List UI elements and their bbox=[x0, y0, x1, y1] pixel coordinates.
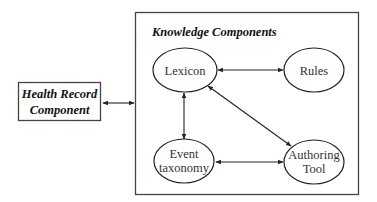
node-event-taxonomy: Event taxonomy bbox=[154, 139, 214, 183]
node-lexicon: Lexicon bbox=[153, 48, 217, 92]
authoring-tool-label-line1: Authoring bbox=[288, 148, 340, 162]
health-record-label-line2: Component bbox=[30, 103, 90, 117]
knowledge-components-title: Knowledge Components bbox=[151, 25, 277, 39]
event-taxonomy-label-line2: taxonomy bbox=[159, 161, 210, 175]
rules-label: Rules bbox=[300, 64, 329, 78]
node-authoring-tool: Authoring Tool bbox=[284, 140, 344, 184]
authoring-tool-label-line2: Tool bbox=[303, 162, 326, 176]
health-record-component: Health Record Component bbox=[19, 83, 101, 121]
health-record-label-line1: Health Record bbox=[21, 87, 98, 101]
lexicon-label: Lexicon bbox=[165, 64, 207, 78]
architecture-diagram: Knowledge Components Health Record Compo… bbox=[0, 0, 377, 202]
edge-lexicon-authoring bbox=[208, 86, 291, 146]
event-taxonomy-label-line1: Event bbox=[169, 147, 199, 161]
node-rules: Rules bbox=[284, 48, 344, 92]
